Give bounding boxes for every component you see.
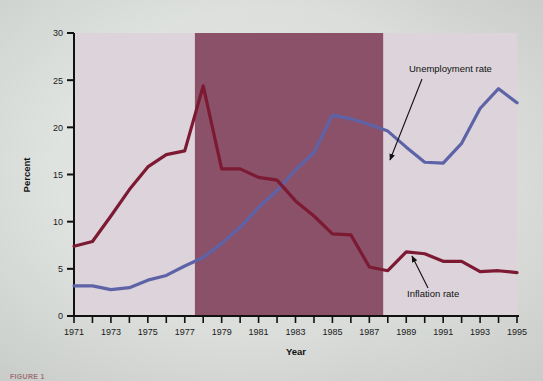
annotation-label: Inflation rate <box>407 288 459 299</box>
y-axis-tick-label: 20 <box>53 123 63 133</box>
y-axis-tick-label: 25 <box>53 76 63 86</box>
x-axis-tick-label: 1981 <box>249 327 269 337</box>
y-axis-title: Percent <box>21 157 32 193</box>
x-axis-tick-label: 1989 <box>396 327 416 337</box>
x-axis-tick-label: 1979 <box>212 327 232 337</box>
chart-figure: 051015202530 197119731975197719791981198… <box>0 0 543 381</box>
y-axis-tick-label: 5 <box>58 264 63 274</box>
figure-caption: FIGURE 1 <box>10 373 45 380</box>
x-axis-tick-label: 1991 <box>433 327 453 337</box>
x-axis-tick-label: 1993 <box>470 327 490 337</box>
y-axis-tick-label: 30 <box>53 28 63 38</box>
line-chart: 051015202530 197119731975197719791981198… <box>0 0 543 381</box>
x-axis-tick-label: 1977 <box>175 327 195 337</box>
y-axis-tick-label: 0 <box>58 311 63 321</box>
annotation-label: Unemployment rate <box>409 63 492 74</box>
x-axis-title: Year <box>286 346 306 357</box>
x-axis-tick-label: 1985 <box>322 327 342 337</box>
x-axis-tick-label: 1971 <box>64 327 84 337</box>
x-axis-tick-label: 1975 <box>138 327 158 337</box>
y-axis-tick-label: 15 <box>53 170 63 180</box>
x-axis-tick-label: 1987 <box>359 327 379 337</box>
y-axis-tick-label: 10 <box>53 217 63 227</box>
x-axis-tick-label: 1995 <box>507 327 527 337</box>
x-axis-tick-label: 1973 <box>101 327 121 337</box>
x-axis-ticks: 1971197319751977197919811983198519871989… <box>64 316 527 337</box>
y-axis-ticks: 051015202530 <box>53 28 74 321</box>
x-axis-tick-label: 1983 <box>285 327 305 337</box>
shaded-period-band <box>195 33 383 316</box>
